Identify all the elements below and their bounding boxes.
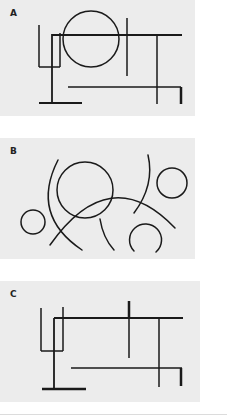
panel-a: A (0, 0, 195, 116)
panel-c: C (0, 281, 200, 402)
panel-label: B (10, 146, 17, 156)
bottom-divider (0, 414, 227, 415)
panel-b: B (0, 138, 195, 259)
panel-label: C (10, 289, 17, 299)
panel-label: A (10, 8, 17, 18)
